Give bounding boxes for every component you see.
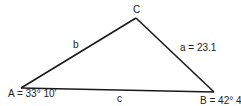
side-a [136, 18, 214, 92]
vertex-b-label: B = 42° 40′ [200, 96, 241, 106]
vertex-c-label: C [133, 5, 140, 15]
vertex-a-label: A = 33° 10′ [8, 89, 56, 99]
side-b-label: b [73, 40, 79, 50]
side-c-label: c [117, 94, 122, 104]
side-b [21, 18, 136, 88]
side-a-label: a = 23.1 [180, 43, 216, 53]
